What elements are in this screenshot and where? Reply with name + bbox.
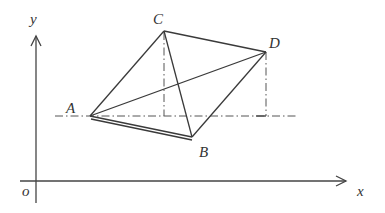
diagram-canvas: y x o A B C D [0, 0, 385, 213]
point-b-label: B [199, 144, 208, 160]
y-axis-label: y [28, 11, 37, 27]
origin-label: o [22, 183, 30, 199]
x-axis-label: x [356, 183, 364, 199]
point-c-label: C [153, 11, 164, 27]
segment-ab-lower [91, 119, 192, 140]
point-a-label: A [65, 100, 76, 116]
segment-ac [90, 31, 164, 116]
segment-db [192, 52, 266, 137]
diagonal-cb [164, 31, 192, 137]
point-d-label: D [268, 35, 280, 51]
segment-cd [164, 31, 266, 52]
segment-ab-upper [90, 116, 192, 137]
geometry-figure: y x o A B C D [0, 0, 385, 213]
